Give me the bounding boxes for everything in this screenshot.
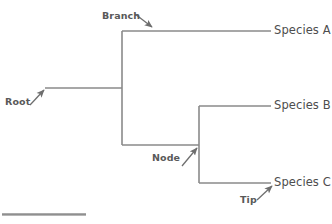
tip-label-species-c: Species C [274,177,331,189]
annotation-label-root: Root [5,97,30,107]
annotation-arrows [30,14,272,200]
annotation-label-branch: Branch [102,11,140,21]
tip-label-species-a: Species A [274,25,331,37]
node-arrow-icon [182,148,197,166]
root-arrow-icon [30,90,44,105]
annotation-label-node: Node [152,153,180,163]
annotation-label-tip: Tip [240,195,257,205]
tip-arrow-icon [257,186,272,200]
phylogenetic-tree-figure: Species A Species B Species C Branch Roo… [0,0,332,224]
tip-label-species-b: Species B [274,100,331,112]
scale-bar [2,213,86,216]
